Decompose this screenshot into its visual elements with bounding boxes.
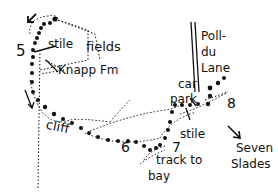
car-park-label-line1: car xyxy=(178,78,197,90)
stile-top-label: stile xyxy=(48,38,73,50)
seven-slades-label-line2: Slades xyxy=(231,158,271,170)
waypoint-7: 7 xyxy=(172,140,181,154)
poll-du-lane-label-line2: du xyxy=(201,46,216,58)
waypoint-6: 6 xyxy=(121,140,130,154)
track-to-bay-label-line2: bay xyxy=(148,170,170,182)
track-to-bay-label-line1: track to xyxy=(156,154,202,166)
waypoint-8: 8 xyxy=(227,96,236,110)
fields-label: fields xyxy=(86,40,121,53)
knapp-fm-arrow-icon xyxy=(46,60,58,72)
car-park-label-line2: park xyxy=(170,93,197,105)
seven-slades-label-line1: Seven xyxy=(236,142,273,154)
seven-slades-arrow-icon xyxy=(228,126,240,138)
stile-bottom-label: stile xyxy=(180,128,205,140)
poll-du-lane-label-line3: Lane xyxy=(201,62,230,74)
knapp-fm-label: Knapp Fm xyxy=(58,64,118,76)
poll-du-lane-label-line1: Poll- xyxy=(201,30,226,42)
waypoint-5: 5 xyxy=(16,44,26,59)
